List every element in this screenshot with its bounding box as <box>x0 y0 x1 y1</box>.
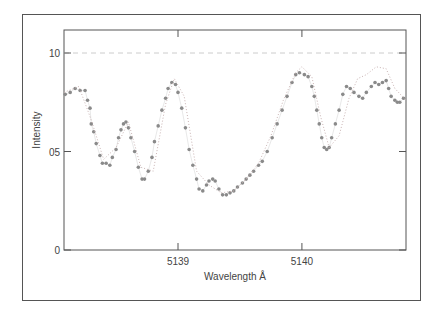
data-point <box>124 120 128 124</box>
data-point <box>156 124 160 128</box>
data-point <box>195 177 199 181</box>
data-point <box>68 91 72 95</box>
data-point <box>143 177 147 181</box>
data-point <box>244 177 248 181</box>
data-point <box>341 93 345 97</box>
data-point <box>361 97 365 101</box>
data-point <box>389 95 393 99</box>
data-point <box>265 150 269 154</box>
data-point <box>176 91 180 95</box>
data-point <box>377 83 381 87</box>
plot-area: 0051051395140Wavelength ÅIntensity <box>31 30 406 282</box>
data-point <box>101 162 105 166</box>
data-point <box>381 81 385 85</box>
data-point <box>119 128 123 132</box>
data-point <box>387 87 391 91</box>
data-point <box>146 169 150 173</box>
data-point <box>348 87 352 91</box>
data-point <box>315 108 319 112</box>
data-point <box>370 85 374 89</box>
data-point <box>330 136 334 140</box>
data-point <box>92 130 96 134</box>
data-point <box>98 154 102 158</box>
y-tick-label: 10 <box>49 48 61 59</box>
data-point <box>108 163 112 167</box>
data-point <box>117 136 121 140</box>
data-point <box>174 83 178 87</box>
y-tick-label: 0 <box>54 245 60 256</box>
data-point <box>111 156 115 160</box>
data-point <box>260 160 264 164</box>
data-point <box>197 187 201 191</box>
data-point <box>88 106 92 110</box>
x-tick-label: 5140 <box>291 256 314 267</box>
x-axis-label: Wavelength Å <box>204 270 266 282</box>
data-point <box>357 95 361 99</box>
data-point <box>365 91 369 95</box>
data-point <box>160 108 164 112</box>
data-point <box>384 79 388 83</box>
x-tick-label: 5139 <box>167 256 190 267</box>
data-point <box>180 106 184 110</box>
data-point <box>334 122 338 126</box>
data-point <box>191 163 195 167</box>
data-point <box>104 162 108 166</box>
data-point <box>221 193 225 197</box>
plot-border <box>64 30 406 250</box>
data-point <box>257 163 261 167</box>
data-point <box>213 179 217 183</box>
data-point <box>207 179 211 183</box>
data-point <box>205 183 209 187</box>
spectrum-plot: 0051051395140Wavelength ÅIntensity <box>0 0 445 318</box>
data-point <box>320 136 324 140</box>
data-point <box>166 87 170 91</box>
data-point <box>153 140 157 144</box>
data-point <box>345 85 349 89</box>
data-point <box>298 71 302 75</box>
data-point <box>164 97 168 101</box>
data-point <box>225 193 229 197</box>
data-point <box>310 85 314 89</box>
data-point <box>275 122 279 126</box>
data-point <box>73 87 77 91</box>
data-point <box>228 191 232 195</box>
model-curve <box>64 67 406 193</box>
data-point <box>170 81 174 85</box>
data-point <box>217 187 221 191</box>
data-point <box>398 100 402 104</box>
data-point <box>86 98 90 102</box>
data-point <box>270 136 274 140</box>
data-point <box>317 122 321 126</box>
y-tick-label: 05 <box>49 147 61 158</box>
data-point <box>373 81 377 85</box>
data-point <box>63 93 67 97</box>
data-point <box>133 150 137 154</box>
data-point <box>94 142 98 146</box>
data-point <box>303 73 307 77</box>
observed-connector <box>65 73 403 195</box>
data-point <box>150 156 154 160</box>
data-point <box>187 148 191 152</box>
data-point <box>201 189 205 193</box>
y-axis-label: Intensity <box>31 111 42 148</box>
data-point <box>352 91 356 95</box>
data-point <box>137 165 141 169</box>
data-point <box>337 108 341 112</box>
data-point <box>184 126 188 130</box>
data-point <box>306 75 310 79</box>
data-point <box>83 89 87 93</box>
